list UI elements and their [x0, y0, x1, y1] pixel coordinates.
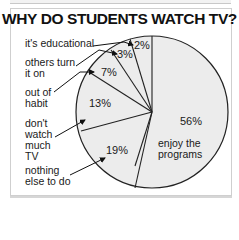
label-educational: it's educational: [25, 38, 94, 49]
label-habit: out of habit: [25, 87, 51, 109]
pct-56: 56%: [180, 116, 202, 127]
label-nothing: nothing else to do: [25, 165, 71, 187]
pct-7: 7%: [101, 67, 117, 78]
pct-2: 2%: [134, 40, 150, 51]
pct-13: 13%: [89, 98, 111, 109]
label-dont: don't watch much TV: [25, 118, 52, 162]
label-enjoy: enjoy the programs: [158, 138, 202, 160]
pct-3: 3%: [117, 49, 133, 60]
label-others: others turn it on: [25, 57, 75, 79]
pct-19: 19%: [106, 145, 128, 156]
